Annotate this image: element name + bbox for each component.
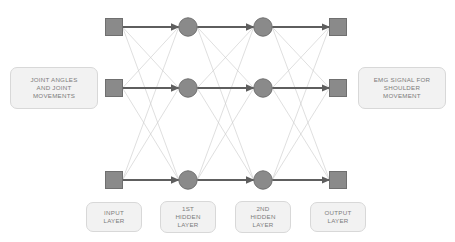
node-hidden1 xyxy=(179,18,197,36)
node-input xyxy=(106,172,123,189)
layer-label-hidden1-line-1: 1ST xyxy=(182,205,194,213)
cross-connections xyxy=(123,27,330,180)
input-description-line-3: MOVEMENTS xyxy=(33,92,75,100)
layer-label-output-line-1: OUTPUT xyxy=(325,209,352,217)
layer-label-hidden2-line-2: HIDDEN xyxy=(250,213,275,221)
layer-label-output-line-2: LAYER xyxy=(327,217,348,225)
node-output xyxy=(330,80,347,97)
layer-label-input-line-1: INPUT xyxy=(104,209,124,217)
node-input xyxy=(106,80,123,97)
output-description-line-2: SHOULDER xyxy=(384,84,420,92)
direct-connections xyxy=(123,27,330,180)
output-description-line-3: MOVEMENT xyxy=(383,92,421,100)
layer-label-output: OUTPUT LAYER xyxy=(310,202,366,232)
layer-nodes xyxy=(106,18,347,189)
node-hidden2 xyxy=(254,79,272,97)
layer-label-input-line-2: LAYER xyxy=(103,217,124,225)
output-description-label: EMG SIGNAL FOR SHOULDER MOVEMENT xyxy=(358,67,446,109)
node-input xyxy=(106,19,123,36)
layer-label-hidden1-line-2: HIDDEN xyxy=(175,213,200,221)
input-description-line-1: JOINT ANGLES xyxy=(30,76,77,84)
node-hidden1 xyxy=(179,171,197,189)
node-hidden2 xyxy=(254,171,272,189)
output-description-line-1: EMG SIGNAL FOR xyxy=(374,76,431,84)
neural-network-diagram: JOINT ANGLES AND JOINT MOVEMENTS EMG SIG… xyxy=(0,0,455,242)
layer-label-hidden2-line-1: 2ND xyxy=(256,205,269,213)
layer-label-hidden2: 2ND HIDDEN LAYER xyxy=(235,201,291,233)
node-output xyxy=(330,172,347,189)
node-hidden1 xyxy=(179,79,197,97)
layer-label-hidden1: 1ST HIDDEN LAYER xyxy=(160,201,216,233)
node-hidden2 xyxy=(254,18,272,36)
layer-label-hidden1-line-3: LAYER xyxy=(177,221,198,229)
network-graphic xyxy=(0,0,455,242)
layer-label-hidden2-line-3: LAYER xyxy=(252,221,273,229)
layer-label-input: INPUT LAYER xyxy=(86,202,142,232)
input-description-line-2: AND JOINT xyxy=(37,84,72,92)
input-description-label: JOINT ANGLES AND JOINT MOVEMENTS xyxy=(10,67,98,109)
node-output xyxy=(330,19,347,36)
